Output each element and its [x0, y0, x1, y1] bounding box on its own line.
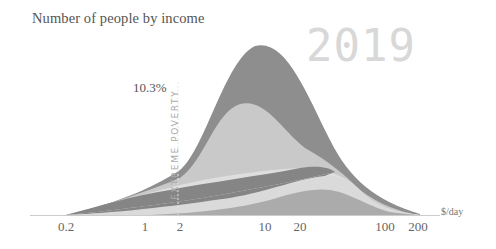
x-tick-100: 100 — [375, 219, 395, 235]
x-tick-20: 20 — [294, 219, 307, 235]
x-tick-0.2: 0.2 — [58, 219, 74, 235]
poverty-percentage: 10.3% — [133, 80, 167, 96]
x-tick-10: 10 — [259, 219, 272, 235]
x-axis-unit: $/day — [441, 206, 463, 217]
x-tick-200: 200 — [408, 219, 428, 235]
income-distribution-chart — [0, 0, 496, 249]
x-tick-1: 1 — [142, 219, 149, 235]
x-tick-2: 2 — [177, 219, 184, 235]
poverty-line-label: EXTREME POVERTY — [170, 90, 180, 200]
